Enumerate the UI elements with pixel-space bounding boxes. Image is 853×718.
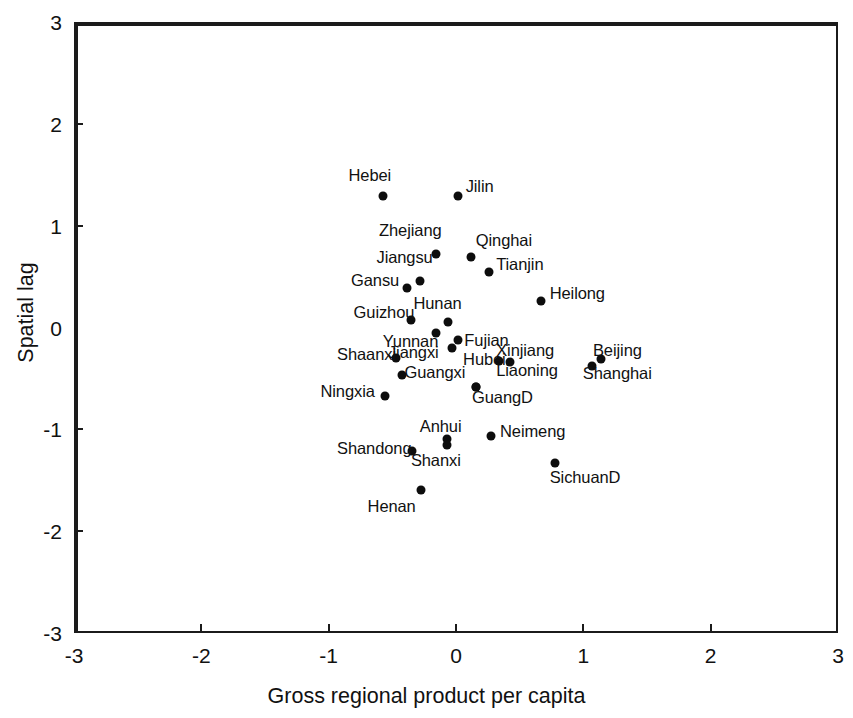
scatter-point-label: Tianjin (496, 256, 543, 273)
scatter-point (466, 253, 475, 262)
scatter-point-label: Guizhou (354, 304, 415, 321)
scatter-point (381, 391, 390, 400)
scatter-point (454, 192, 463, 201)
x-axis-tick (455, 624, 457, 633)
scatter-point-label: Anhui (420, 418, 462, 435)
scatter-point (378, 192, 387, 201)
scatter-point-label: Neimeng (500, 423, 565, 440)
scatter-point-label: Shanghai (583, 365, 652, 382)
scatter-point-label: Shanxi (411, 452, 461, 469)
scatter-point-label: Hebei (348, 167, 391, 184)
scatter-point (454, 335, 463, 344)
scatter-point (403, 283, 412, 292)
x-axis-tick-label: 2 (705, 645, 717, 666)
x-axis-tick-label: 3 (832, 645, 844, 666)
scatter-point-label: Shaanxi (337, 346, 396, 363)
x-axis-tick-label: 0 (450, 645, 462, 666)
scatter-point-label: Zhejiang (379, 222, 442, 239)
scatter-point-label: Shandong (337, 440, 411, 457)
scatter-point-label: Hunan (413, 295, 461, 312)
scatter-point (484, 268, 493, 277)
scatter-point (447, 343, 456, 352)
x-axis-tick-label: -1 (319, 645, 338, 666)
x-axis-tick (200, 624, 202, 633)
scatter-point (536, 296, 545, 305)
y-axis-tick (74, 123, 83, 125)
scatter-point-label: Guangxi (405, 364, 466, 381)
x-axis-tick (328, 624, 330, 633)
scatter-point-label: SichuanD (550, 469, 621, 486)
scatter-point-label: Beijing (593, 342, 642, 359)
scatter-point (415, 276, 424, 285)
y-axis-tick (74, 530, 83, 532)
x-axis-tick (582, 624, 584, 633)
vertical-zero-reference-line (76, 24, 78, 631)
scatter-point-label: Jilin (466, 178, 494, 195)
x-axis-tick (710, 624, 712, 633)
y-axis-tick-label: 3 (24, 12, 62, 33)
moran-scatterplot-figure: HebeiJilinZhejiangQinghaiJiangsuTianjinG… (0, 0, 853, 718)
y-axis-tick (74, 225, 83, 227)
y-axis-label: Spatial lag (14, 183, 39, 443)
scatter-point (417, 486, 426, 495)
y-axis-tick-label: -3 (24, 623, 62, 644)
x-axis-label: Gross regional product per capita (0, 684, 853, 709)
scatter-point-label: Liaoning (496, 362, 558, 379)
scatter-point-label: Heilong (550, 285, 605, 302)
scatter-point-label: GuangD (472, 389, 533, 406)
scatter-point (550, 458, 559, 467)
scatter-point-label: Ningxia (320, 383, 374, 400)
y-axis-tick (74, 428, 83, 430)
y-axis-tick-label: -2 (24, 521, 62, 542)
x-axis-tick-label: -3 (65, 645, 84, 666)
y-axis-tick-label: 2 (24, 113, 62, 134)
x-axis-tick-label: 1 (577, 645, 589, 666)
horizontal-zero-reference-line (76, 24, 836, 26)
scatter-point (432, 250, 441, 259)
scatter-point-label: Gansu (351, 272, 399, 289)
scatter-point-label: Henan (368, 498, 416, 515)
scatter-point-label: Jiangsu (377, 249, 433, 266)
scatter-point-label: Qinghai (476, 232, 532, 249)
plot-area: HebeiJilinZhejiangQinghaiJiangsuTianjinG… (74, 22, 838, 633)
scatter-point (443, 318, 452, 327)
scatter-point (442, 440, 451, 449)
x-axis-tick-label: -2 (192, 645, 211, 666)
scatter-point (487, 432, 496, 441)
